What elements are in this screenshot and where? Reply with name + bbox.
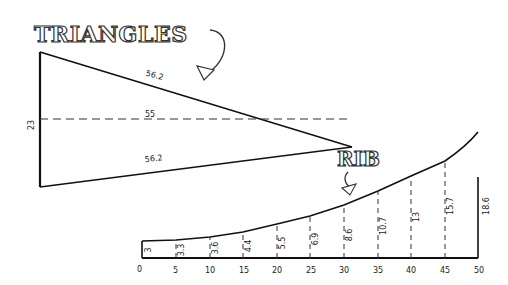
svg-text:4.4: 4.4: [244, 240, 253, 253]
bottom-side-label: 56.2: [144, 153, 163, 164]
svg-text:10.7: 10.7: [379, 217, 388, 235]
rib-x-ticks: 0 5 10 15 20 25 30 35 40 45 50: [137, 265, 484, 275]
svg-text:8.6: 8.6: [345, 229, 354, 242]
svg-text:10: 10: [205, 266, 215, 275]
svg-text:3: 3: [144, 247, 153, 252]
diagram-canvas: TRIANGLES 23 56.2 55 56.2 RIB 3 3.3: [0, 0, 508, 285]
svg-text:6.9: 6.9: [311, 233, 320, 246]
top-side-label: 56.2: [145, 69, 165, 82]
svg-text:20: 20: [272, 266, 282, 275]
rib-arrow-head-icon: [342, 184, 356, 195]
svg-text:35: 35: [373, 266, 383, 275]
curved-arrow-icon: [206, 30, 225, 74]
svg-text:45: 45: [440, 266, 450, 275]
svg-text:15.7: 15.7: [446, 197, 455, 215]
rib-title: RIB: [337, 147, 380, 171]
svg-text:50: 50: [474, 266, 484, 275]
svg-text:5: 5: [173, 266, 178, 275]
svg-text:3.6: 3.6: [211, 242, 220, 255]
center-label: 55: [145, 110, 155, 119]
svg-text:25: 25: [306, 266, 316, 275]
svg-text:13: 13: [412, 212, 421, 222]
height-label: 23: [27, 120, 36, 130]
svg-text:18.6: 18.6: [482, 197, 491, 215]
arrow-head-icon: [197, 66, 214, 80]
svg-text:30: 30: [339, 266, 349, 275]
rib-height-labels: 3 3.3 3.6 4.4 5.5 6.9 8.6 10.7 13 15.7 1…: [144, 197, 491, 256]
triangle-shape: [40, 52, 352, 187]
svg-text:40: 40: [406, 266, 416, 275]
svg-text:0: 0: [137, 265, 142, 274]
triangles-title: TRIANGLES: [34, 21, 188, 47]
svg-text:15: 15: [239, 266, 249, 275]
svg-text:3.3: 3.3: [177, 244, 186, 257]
svg-text:5.5: 5.5: [278, 237, 287, 250]
